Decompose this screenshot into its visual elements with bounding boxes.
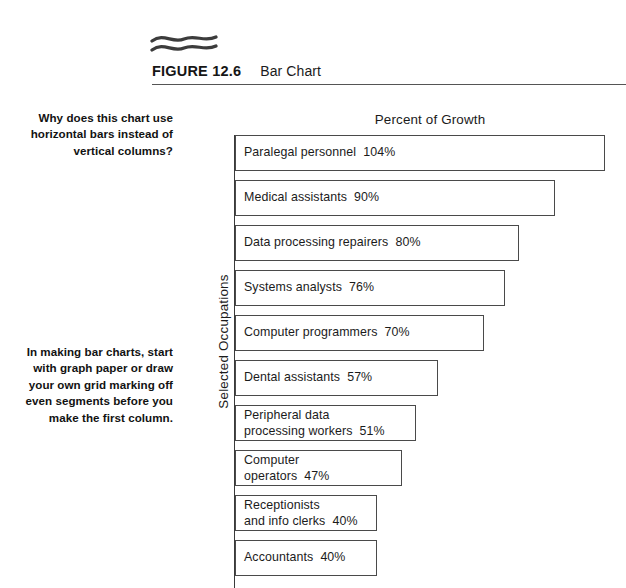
bar-label: Medical assistants 90%	[244, 190, 379, 206]
margin-note-tip: In making bar charts, start with graph p…	[10, 344, 173, 426]
header-divider	[152, 84, 626, 85]
bar: Peripheral data processing workers 51%	[235, 405, 416, 441]
bar-label: Receptionists and info clerks 40%	[244, 498, 358, 529]
figure-number: FIGURE 12.6	[152, 63, 241, 79]
bar: Computer programmers 70%	[235, 315, 484, 351]
bar: Systems analysts 76%	[235, 270, 505, 306]
bar-chart: Percent of Growth Selected Occupations P…	[200, 112, 626, 588]
bar-label: Accountants 40%	[244, 550, 345, 566]
bar: Computer operators 47%	[235, 450, 402, 486]
figure-page: FIGURE 12.6Bar Chart Why does this chart…	[0, 0, 626, 588]
bar-label: Peripheral data processing workers 51%	[244, 408, 385, 439]
figure-title: Bar Chart	[260, 63, 321, 79]
bar: Medical assistants 90%	[235, 180, 555, 216]
figure-caption: FIGURE 12.6Bar Chart	[152, 62, 321, 80]
double-wave-ornament	[150, 33, 220, 55]
bar-label: Computer operators 47%	[244, 453, 329, 484]
bar: Paralegal personnel 104%	[235, 135, 605, 171]
bar-label: Computer programmers 70%	[244, 325, 410, 341]
chart-title: Percent of Growth	[234, 112, 626, 127]
bar: Data processing repairers 80%	[235, 225, 519, 261]
bar: Dental assistants 57%	[235, 360, 438, 396]
bar: Receptionists and info clerks 40%	[235, 495, 377, 531]
margin-note-question: Why does this chart use horizontal bars …	[20, 110, 173, 159]
bar-label: Dental assistants 57%	[244, 370, 372, 386]
bar-label: Paralegal personnel 104%	[244, 145, 395, 161]
bar-label: Data processing repairers 80%	[244, 235, 421, 251]
bar-label: Systems analysts 76%	[244, 280, 374, 296]
bar-series: Paralegal personnel 104%Medical assistan…	[235, 135, 626, 588]
bar: Accountants 40%	[235, 540, 377, 576]
y-axis-label: Selected Occupations	[216, 257, 231, 427]
